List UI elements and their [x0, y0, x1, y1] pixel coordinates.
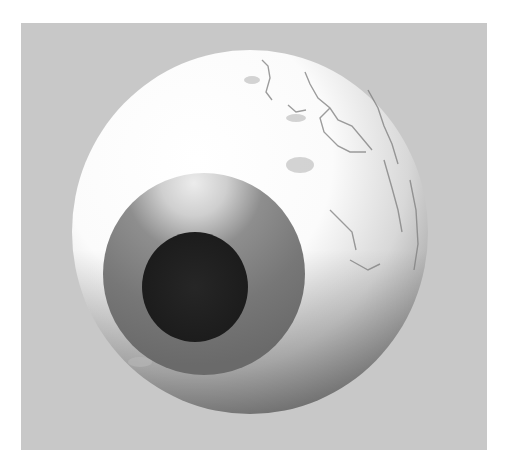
- eyeball-illustration: [0, 0, 509, 463]
- pupil: [142, 232, 248, 342]
